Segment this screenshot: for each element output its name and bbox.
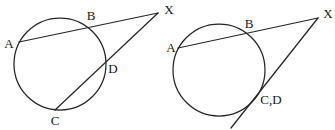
right-point-label-x: X: [323, 6, 333, 21]
figure-right: ABC,DX: [166, 6, 333, 129]
figure-left: ABCDX: [4, 2, 174, 128]
circle-secant-tangent-diagram: ABCDXABC,DX: [0, 0, 335, 130]
left-point-label-x: X: [164, 2, 174, 17]
right-point-label-b: B: [245, 16, 254, 31]
right-point-label-a: A: [166, 40, 176, 55]
left-circle: [14, 18, 106, 110]
right-point-label-cd: C,D: [260, 92, 281, 107]
left-point-label-c: C: [51, 113, 60, 128]
left-secant-C-D-X: [55, 13, 158, 110]
left-point-label-d: D: [108, 61, 117, 76]
right-tangent-CD-X: [231, 18, 318, 128]
left-point-label-a: A: [4, 36, 14, 51]
left-point-label-b: B: [87, 8, 96, 23]
geometry-figure-page: ABCDXABC,DX: [0, 0, 335, 130]
